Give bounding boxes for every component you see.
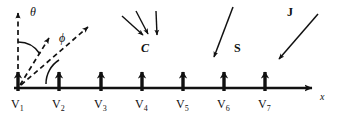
angle-label-phi: ϕ: [59, 32, 65, 44]
phi-vector: [21, 27, 88, 85]
site-label-v4: V4: [135, 98, 148, 113]
site-label-v6: V6: [217, 98, 230, 113]
site-label-v5: V5: [176, 98, 189, 113]
incident-ray-s: [214, 7, 233, 57]
vector-diagram-figure: θ ϕ C S J x V1 V2 V3 V4 V5 V6 V7: [0, 0, 338, 123]
angle-label-theta: θ: [30, 6, 36, 18]
incident-label-s: S: [234, 42, 241, 54]
theta-arc: [18, 42, 40, 54]
incident-label-j: J: [287, 6, 293, 18]
incident-rays-c: [122, 11, 157, 35]
site-label-v7: V7: [258, 98, 271, 113]
incident-label-c: C: [141, 42, 149, 54]
site-label-v3: V3: [94, 98, 107, 113]
phi-arc: [46, 60, 59, 84]
axis-label-x: x: [320, 92, 324, 102]
incident-ray-j: [279, 14, 318, 59]
theta-vector: [20, 38, 49, 85]
site-label-v1: V1: [11, 98, 24, 113]
site-label-v2: V2: [52, 98, 65, 113]
